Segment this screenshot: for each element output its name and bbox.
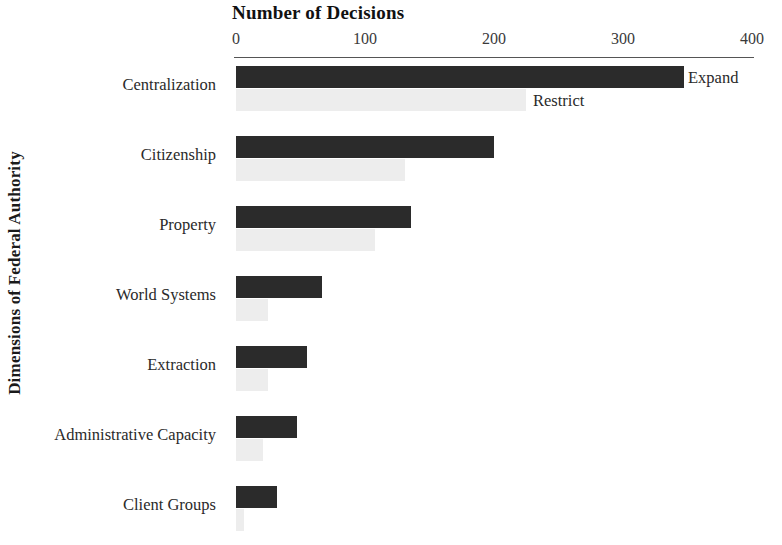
bar-expand [236,486,277,508]
bar-expand [236,136,494,158]
bar-expand [236,206,411,228]
bar-restrict [236,89,526,111]
bar-restrict [236,229,375,251]
chart-container: Dimensions of Federal Authority Number o… [0,0,782,545]
bar-restrict [236,299,268,321]
bar-restrict [236,439,263,461]
bar-expand [236,66,684,88]
chart-category-row: World Systems [0,268,782,338]
x-axis: 0100200300400 [0,30,782,58]
bar-expand [236,276,322,298]
x-axis-tick-label: 100 [353,30,377,48]
bar-expand [236,416,297,438]
x-axis-tick-label: 300 [611,30,635,48]
chart-category-row: Client Groups [0,478,782,545]
category-label: World Systems [0,285,216,305]
category-label: Centralization [0,75,216,95]
bar-restrict [236,369,268,391]
bar-expand [236,346,307,368]
category-label: Client Groups [0,495,216,515]
bar-restrict [236,509,244,531]
x-axis-tick-label: 0 [232,30,240,48]
chart-category-row: Citizenship [0,128,782,198]
chart-category-row: Extraction [0,338,782,408]
category-label: Citizenship [0,145,216,165]
category-label: Administrative Capacity [0,425,216,445]
bar-restrict [236,159,405,181]
chart-category-row: Property [0,198,782,268]
plot-area: Expand Restrict CentralizationCitizenshi… [0,58,782,545]
x-axis-tick-label: 400 [740,30,764,48]
chart-category-row: Centralization [0,58,782,128]
x-axis-tick-label: 200 [482,30,506,48]
category-label: Extraction [0,355,216,375]
chart-category-row: Administrative Capacity [0,408,782,478]
chart-title: Number of Decisions [232,2,404,24]
category-label: Property [0,215,216,235]
